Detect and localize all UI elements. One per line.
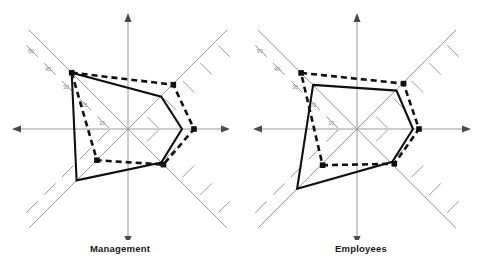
- tick-ne-40: [429, 63, 441, 75]
- tick-label-30: 30: [63, 84, 69, 90]
- tick-label-10: 10: [99, 120, 105, 126]
- tick-ne-50: [218, 45, 230, 57]
- radar-panel-employees: 10 20 30 40 50 Employees: [241, 0, 481, 274]
- radar-chart-figure: 10 20 30 40 50 Management: [0, 0, 481, 274]
- tick-sw-50: [26, 201, 38, 213]
- tick-ne-40: [200, 63, 212, 75]
- tick-labels-group: 10 20 30 40 50: [257, 48, 334, 126]
- tick-label-40: 40: [45, 66, 51, 72]
- tick-se-30: [412, 166, 424, 178]
- vertex-ne: [171, 82, 177, 88]
- panel-caption-employees: Employees: [241, 243, 481, 254]
- vertex-sw: [320, 162, 326, 168]
- vertex-nw: [69, 70, 75, 76]
- tick-sw-40: [44, 183, 56, 195]
- arrow-west: [12, 126, 21, 133]
- vertex-e: [191, 126, 197, 132]
- radar-panel-management: 10 20 30 40 50 Management: [0, 0, 240, 274]
- vertex-se: [161, 162, 167, 168]
- tick-label-40: 40: [274, 66, 280, 72]
- axis-arrowheads: [12, 13, 230, 240]
- tick-se-50: [218, 201, 230, 213]
- tick-sw-50: [255, 201, 266, 213]
- tick-sw-40: [273, 183, 285, 195]
- vertex-e: [416, 126, 422, 132]
- tick-labels-group: 10 20 30 40 50: [28, 48, 105, 126]
- tick-se-10: [147, 130, 159, 142]
- tick-se-40: [429, 183, 441, 195]
- tick-label-10: 10: [328, 120, 334, 126]
- tick-se-30: [183, 166, 195, 178]
- radar-chart-employees: 10 20 30 40 50: [241, 0, 481, 240]
- vertex-markers: [69, 70, 197, 168]
- vertex-ne: [401, 81, 407, 87]
- vertex-sw: [94, 157, 100, 163]
- tick-label-50: 50: [257, 48, 263, 54]
- tick-ne-10: [147, 117, 159, 129]
- tick-label-50: 50: [28, 48, 34, 54]
- arrow-east: [462, 126, 471, 133]
- tick-ne-30: [183, 81, 195, 93]
- tick-se-40: [200, 183, 212, 195]
- arrow-east: [221, 126, 230, 133]
- tick-sw-10: [327, 130, 339, 142]
- tick-sw-10: [98, 130, 110, 142]
- tick-se-50: [447, 201, 459, 213]
- arrow-south: [354, 236, 361, 240]
- axes-group: [255, 15, 469, 240]
- arrow-north: [354, 13, 361, 22]
- tick-label-30: 30: [292, 84, 298, 90]
- tick-se-10: [376, 130, 388, 142]
- arrow-south: [125, 236, 132, 240]
- tick-ne-30: [412, 81, 424, 93]
- vertex-se: [392, 161, 398, 167]
- tick-ne-10: [376, 117, 388, 129]
- vertex-nw: [298, 70, 304, 76]
- tick-ne-50: [447, 45, 459, 57]
- radar-chart-management: 10 20 30 40 50: [0, 0, 240, 240]
- panel-caption-management: Management: [0, 243, 240, 254]
- arrow-west: [253, 126, 262, 133]
- tick-sw-30: [62, 166, 74, 178]
- arrow-north: [125, 13, 132, 22]
- tick-sw-20: [80, 148, 92, 160]
